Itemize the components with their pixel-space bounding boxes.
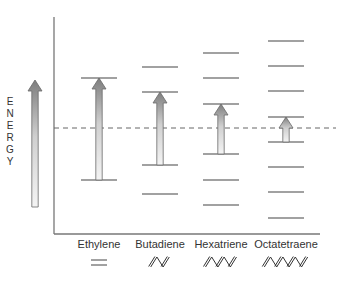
energy-letter: N	[4, 108, 16, 119]
molecule-label: Octatetraene	[246, 238, 326, 250]
energy-letter: E	[4, 96, 16, 107]
orbital-levels	[81, 41, 304, 218]
energy-letter: R	[4, 132, 16, 143]
energy-letter: E	[4, 120, 16, 131]
transition-arrow-octatetraene	[279, 117, 293, 142]
transition-arrow-hexatriene	[214, 104, 228, 154]
hexatriene-structure-icon	[204, 257, 237, 268]
butadiene-structure-icon	[149, 257, 170, 268]
energy-letter: Y	[4, 156, 16, 167]
energy-axis-arrow-icon	[28, 80, 42, 207]
transition-arrow-ethylene	[92, 78, 106, 180]
energy-arrow-icon	[28, 80, 42, 207]
ethylene-structure-icon	[91, 260, 107, 265]
molecule-structures	[91, 257, 308, 268]
transition-arrows	[92, 78, 293, 180]
octatetraene-structure-icon	[262, 257, 307, 268]
energy-letter: G	[4, 144, 16, 155]
